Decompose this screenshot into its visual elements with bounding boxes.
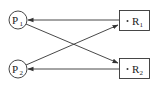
resource-allocation-graph: P 1 P 2 R 1 R 2 bbox=[0, 0, 160, 89]
process-p2-label: P bbox=[12, 63, 18, 75]
resource-r2: R 2 bbox=[120, 59, 150, 79]
process-p1-sub: 1 bbox=[20, 20, 24, 28]
process-p1-label: P bbox=[12, 14, 18, 26]
edge-p2-to-r1 bbox=[26, 25, 118, 65]
resource-r1-sub: 1 bbox=[140, 21, 144, 29]
process-p2-sub: 2 bbox=[20, 69, 24, 77]
resource-r2-sub: 2 bbox=[140, 69, 144, 77]
resource-r1: R 1 bbox=[120, 11, 150, 31]
process-p2: P 2 bbox=[9, 60, 27, 78]
resource-r1-instance-dot bbox=[127, 20, 129, 22]
edge-p1-to-r2 bbox=[26, 24, 118, 63]
resource-r2-instance-dot bbox=[127, 68, 129, 70]
process-p1: P 1 bbox=[9, 11, 27, 29]
